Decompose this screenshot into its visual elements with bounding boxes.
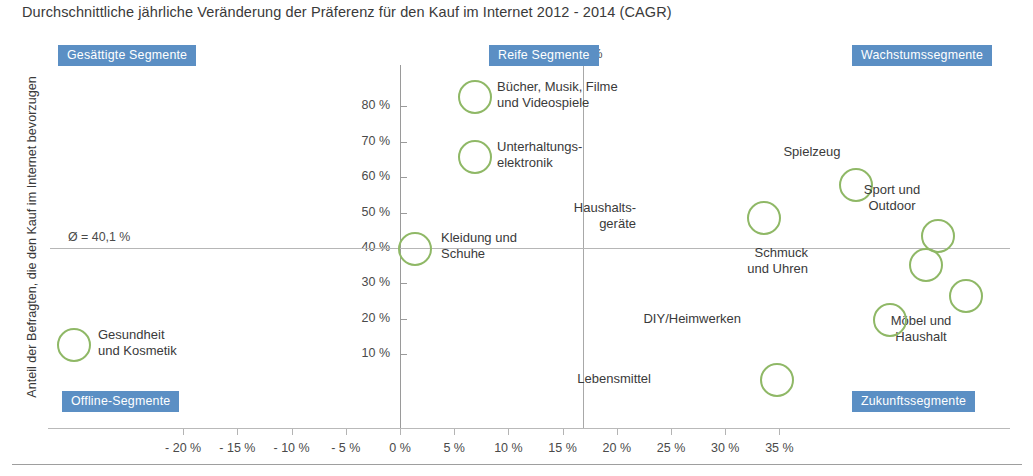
y-axis-tick — [400, 177, 407, 178]
chart-root: Durchschnittliche jährliche Veränderung … — [0, 0, 1033, 476]
x-axis-tick-label: 5 % — [424, 441, 484, 455]
bubble-label-buecher-musik-filme: Bücher, Musik, Filme und Videospiele — [497, 79, 618, 112]
y-axis-tick-label: 10 % — [334, 346, 390, 360]
bubble-label-lebensmittel: Lebensmittel — [0, 371, 651, 387]
x-axis-tick-label: - 20 % — [153, 441, 213, 455]
y-axis-tick — [400, 142, 407, 143]
bubble-label-haushaltsgeraete: Haushalts- geräte — [0, 200, 636, 233]
x-axis-tick — [183, 429, 184, 435]
y-axis-tick-label: 60 % — [334, 169, 390, 183]
x-axis-tick-label: 20 % — [587, 441, 647, 455]
x-axis-line — [48, 428, 1010, 429]
bubble-label-spielzeug: Spielzeug — [752, 144, 872, 160]
y-axis-tick — [400, 354, 407, 355]
page-title: Durchschnittliche jährliche Veränderung … — [22, 4, 672, 20]
x-axis-tick — [292, 429, 293, 435]
x-axis-tick — [508, 429, 509, 435]
x-axis-tick-label: 10 % — [478, 441, 538, 455]
x-axis-tick — [237, 429, 238, 435]
bubble-moebel-und-haushalt[interactable] — [949, 279, 983, 313]
bubble-haushaltsgeraete[interactable] — [747, 201, 781, 235]
quadrant-badge-top_right_inner: Reife Segmente — [489, 45, 599, 66]
footer-divider — [12, 464, 1022, 465]
bubble-label-schmuck-und-uhren: Schmuck und Uhren — [0, 245, 808, 278]
quadrant-badge-top_left: Gesättigte Segmente — [58, 45, 196, 66]
x-axis-tick — [563, 429, 564, 435]
x-axis-tick-label: - 5 % — [316, 441, 376, 455]
bubble-gesundheit-und-kosmetik[interactable] — [57, 328, 91, 362]
y-axis-tick — [400, 283, 407, 284]
y-axis-tick-label: 70 % — [334, 134, 390, 148]
quadrant-badge-top_right: Wachstumssegmente — [852, 45, 992, 66]
bubble-schmuck-und-uhren[interactable] — [909, 248, 943, 282]
bubble-lebensmittel[interactable] — [760, 363, 794, 397]
x-axis-tick-label: 30 % — [695, 441, 755, 455]
x-axis-tick — [454, 429, 455, 435]
bubble-label-gesundheit-und-kosmetik: Gesundheit und Kosmetik — [98, 327, 177, 360]
bubble-label-sport-und-outdoor: Sport und Outdoor — [832, 182, 952, 215]
x-axis-tick — [779, 429, 780, 435]
x-axis-tick — [400, 429, 401, 435]
x-axis-tick — [725, 429, 726, 435]
x-axis-tick-label: - 10 % — [262, 441, 322, 455]
quadrant-badge-bottom_right: Zukunftssegmente — [852, 391, 975, 412]
x-axis-tick-label: - 15 % — [207, 441, 267, 455]
bubble-diy-heimwerken[interactable] — [873, 303, 907, 337]
y-axis-tick-label: 80 % — [334, 98, 390, 112]
x-axis-tick — [671, 429, 672, 435]
x-axis-tick — [617, 429, 618, 435]
x-axis-tick-label: 25 % — [641, 441, 701, 455]
x-axis-tick-label: 15 % — [533, 441, 593, 455]
x-axis-tick — [346, 429, 347, 435]
bubble-unterhaltungselektronik[interactable] — [458, 140, 492, 174]
x-axis-tick-label: 35 % — [749, 441, 809, 455]
bubble-label-unterhaltungselektronik: Unterhaltungs- elektronik — [497, 139, 582, 172]
bubble-label-diy-heimwerken: DIY/Heimwerken — [0, 311, 741, 327]
bubble-buecher-musik-filme[interactable] — [458, 80, 492, 114]
x-axis-tick-label: 0 % — [370, 441, 430, 455]
y-axis-tick — [400, 106, 407, 107]
quadrant-badge-bottom_left: Offline-Segmente — [62, 391, 179, 412]
